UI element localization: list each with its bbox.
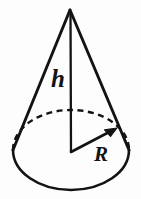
height-line bbox=[71, 12, 72, 152]
cone-right-slant-line bbox=[70, 10, 129, 150]
base-ellipse-front-arc bbox=[13, 150, 129, 190]
cone-diagram: h R bbox=[0, 0, 141, 199]
height-label: h bbox=[51, 66, 65, 91]
cone-drawing bbox=[0, 0, 141, 199]
radius-arrowhead-icon bbox=[105, 128, 118, 137]
radius-label: R bbox=[94, 144, 108, 165]
